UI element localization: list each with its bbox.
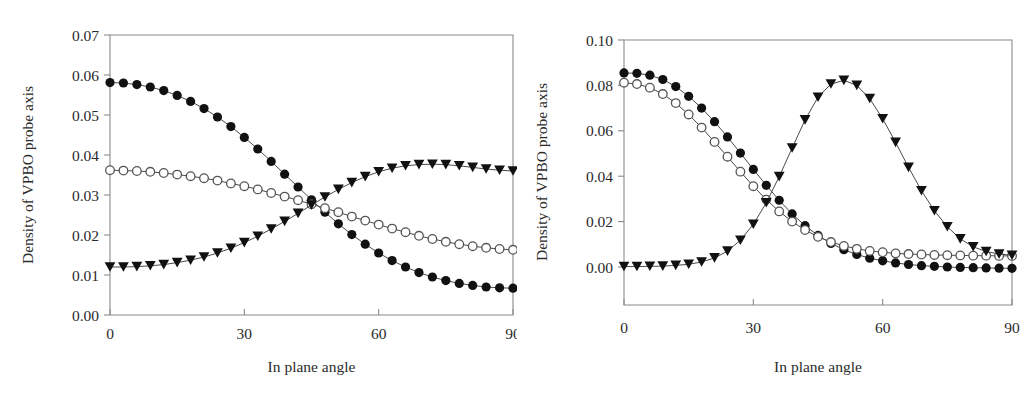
data-point-filled-triangle	[360, 172, 371, 182]
data-point-open-circle	[374, 220, 383, 229]
data-point-filled-circle	[146, 82, 155, 91]
series-connector-line	[110, 170, 513, 250]
data-point-filled-triangle	[373, 167, 384, 177]
chart-panel-right: 0.000.020.040.060.080.100306090In plane …	[517, 0, 1034, 406]
y-axis-title: Density of VPBO probe axis	[533, 83, 550, 261]
data-point-open-circle	[200, 174, 209, 183]
data-point-filled-triangle	[199, 252, 210, 262]
x-tick-label: 30	[237, 325, 253, 342]
data-point-filled-circle	[240, 133, 249, 142]
data-point-open-circle	[659, 90, 668, 99]
y-tick-label: 0.06	[586, 122, 613, 139]
data-point-filled-triangle	[320, 192, 331, 202]
x-axis-title: In plane angle	[774, 358, 862, 375]
data-point-open-circle	[294, 196, 303, 205]
y-tick-label: 0.00	[72, 307, 99, 324]
data-point-open-circle	[917, 250, 926, 259]
data-point-open-circle	[401, 228, 410, 237]
data-point-filled-circle	[414, 268, 423, 277]
data-point-filled-circle	[455, 279, 464, 288]
y-tick-label: 0.06	[72, 67, 99, 84]
data-point-open-circle	[106, 166, 115, 175]
two-panel-figure: 0.000.010.020.030.040.050.060.070306090I…	[0, 0, 1034, 406]
data-point-filled-circle	[173, 91, 182, 100]
data-point-filled-circle	[428, 272, 437, 281]
data-point-filled-circle	[132, 80, 141, 89]
series-open-circle	[106, 166, 517, 254]
data-point-open-circle	[736, 167, 745, 176]
data-point-filled-circle	[105, 78, 114, 87]
data-point-filled-triangle	[709, 253, 720, 263]
data-point-filled-circle	[723, 132, 732, 141]
data-point-open-circle	[321, 204, 330, 213]
data-point-open-circle	[133, 167, 142, 176]
y-tick-label: 0.02	[586, 213, 613, 230]
data-point-open-circle	[749, 182, 758, 191]
data-point-filled-circle	[956, 263, 965, 272]
data-point-open-circle	[159, 169, 168, 178]
data-point-filled-triangle	[955, 234, 966, 244]
data-point-open-circle	[671, 99, 680, 108]
data-point-open-circle	[827, 238, 836, 247]
data-point-filled-circle	[388, 256, 397, 265]
data-point-filled-circle	[253, 144, 262, 153]
series-open-circle	[620, 78, 1017, 260]
data-point-filled-circle	[508, 284, 517, 293]
data-point-filled-circle	[736, 148, 745, 157]
data-point-open-circle	[969, 251, 978, 260]
data-point-open-circle	[788, 217, 797, 226]
y-axis-title: Density of VPBO probe axis	[19, 86, 36, 264]
data-point-filled-circle	[374, 248, 383, 257]
data-point-filled-circle	[917, 261, 926, 270]
data-point-filled-circle	[199, 104, 208, 113]
y-tick-label: 0.10	[586, 32, 613, 49]
data-point-open-circle	[495, 245, 504, 254]
data-point-open-circle	[428, 235, 437, 244]
data-point-filled-circle	[361, 240, 370, 249]
data-point-open-circle	[684, 110, 693, 119]
data-point-filled-circle	[878, 256, 887, 265]
data-point-open-circle	[930, 251, 939, 260]
data-point-filled-triangle	[212, 248, 223, 258]
x-tick-label: 90	[1004, 319, 1020, 336]
data-point-open-circle	[840, 242, 849, 251]
data-point-filled-triangle	[226, 243, 237, 253]
data-point-open-circle	[240, 182, 249, 191]
x-tick-label: 0	[620, 319, 628, 336]
data-point-open-circle	[775, 207, 784, 216]
y-tick-label: 0.03	[72, 187, 99, 204]
data-point-filled-triangle	[838, 76, 849, 86]
data-point-filled-circle	[347, 230, 356, 239]
data-point-open-circle	[146, 168, 155, 177]
data-point-filled-circle	[775, 196, 784, 205]
data-point-open-circle	[891, 249, 900, 258]
plot-frame	[110, 35, 513, 315]
data-point-filled-circle	[891, 258, 900, 267]
data-point-open-circle	[468, 242, 477, 251]
data-point-filled-circle	[632, 69, 641, 78]
data-point-filled-circle	[904, 260, 913, 269]
data-point-filled-triangle	[968, 242, 979, 252]
series-connector-line	[110, 164, 513, 267]
data-point-filled-circle	[969, 263, 978, 272]
x-tick-label: 60	[371, 325, 387, 342]
data-point-filled-circle	[619, 68, 628, 77]
data-point-filled-circle	[441, 276, 450, 285]
y-tick-label: 0.05	[72, 107, 99, 124]
data-point-filled-circle	[293, 182, 302, 191]
data-point-open-circle	[853, 245, 862, 254]
data-point-open-circle	[173, 170, 182, 179]
axes-group: 0.000.010.020.030.040.050.060.070306090I…	[19, 27, 517, 376]
data-point-filled-triangle	[813, 92, 824, 102]
data-point-filled-circle	[468, 281, 477, 290]
data-point-filled-triangle	[929, 206, 940, 216]
data-point-open-circle	[865, 247, 874, 256]
data-point-filled-triangle	[387, 163, 398, 173]
data-point-filled-triangle	[696, 257, 707, 267]
data-point-open-circle	[253, 185, 262, 194]
y-tick-label: 0.01	[72, 267, 99, 284]
x-tick-label: 60	[875, 319, 891, 336]
data-point-filled-circle	[334, 219, 343, 228]
data-point-filled-triangle	[774, 172, 785, 182]
data-point-open-circle	[646, 83, 655, 92]
